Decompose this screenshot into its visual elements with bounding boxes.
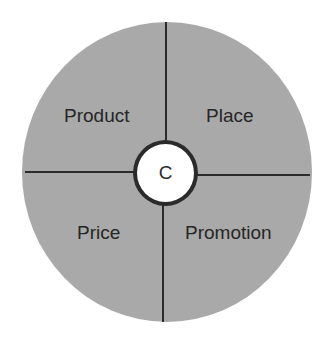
quadrant-label-product: Product (64, 105, 129, 127)
center-label: C (159, 162, 173, 184)
divider-bottom (162, 205, 164, 322)
quadrant-label-price: Price (77, 222, 120, 244)
quadrant-label-place: Place (206, 105, 254, 127)
divider-left (25, 171, 135, 173)
quadrant-label-promotion: Promotion (185, 222, 272, 244)
divider-top (165, 22, 167, 140)
center-circle: C (133, 140, 198, 206)
divider-right (196, 174, 310, 176)
